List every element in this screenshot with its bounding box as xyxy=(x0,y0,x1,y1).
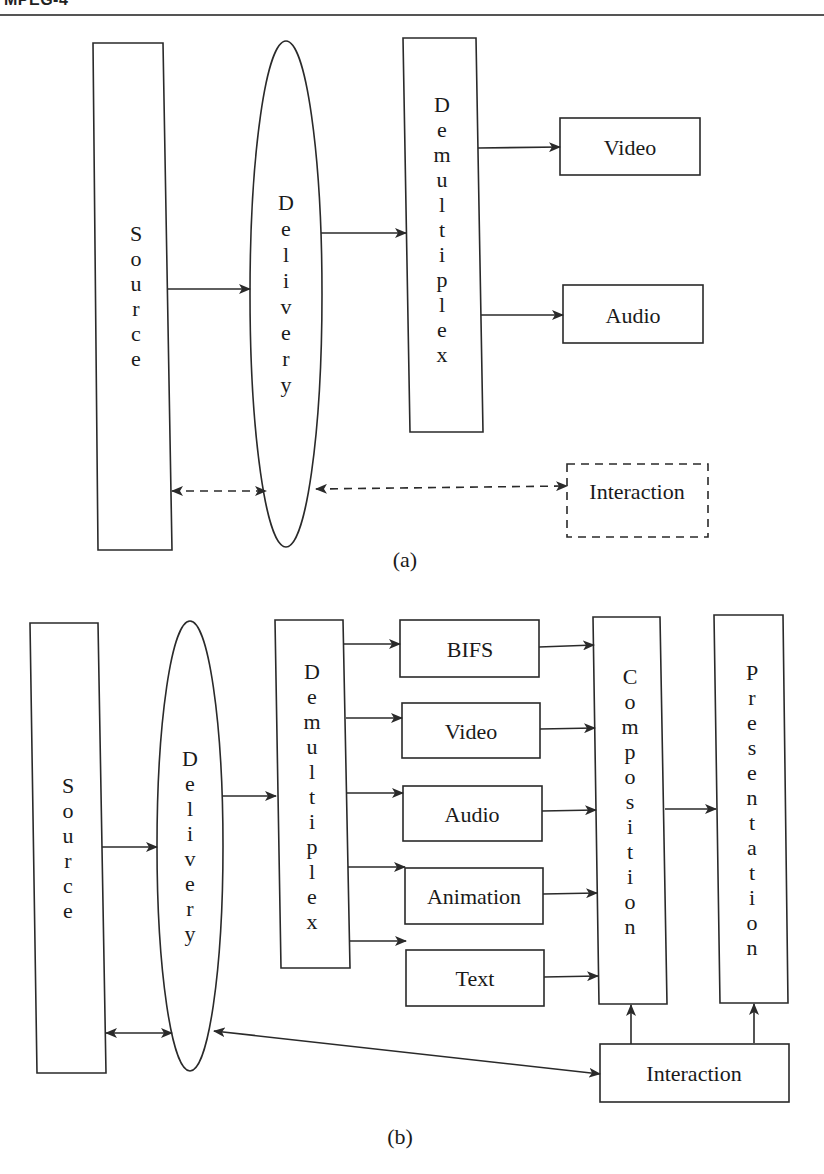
audio-box-a: Audio xyxy=(563,285,703,343)
caption-a: (a) xyxy=(393,547,417,572)
demultiplex-box-a: Demultiplex xyxy=(403,38,483,432)
audio-label-a: Audio xyxy=(606,303,661,328)
source-box-a: Source xyxy=(0,0,172,550)
audio-label-b: Audio xyxy=(445,802,500,827)
video-label-a: Video xyxy=(604,135,656,160)
video-box-b: Video xyxy=(402,703,540,758)
arrow-delivery-interaction-bidirectional-b xyxy=(214,1031,600,1074)
delivery-ellipse-b: Delivery xyxy=(157,621,223,1071)
animation-box-b: Animation xyxy=(405,868,543,924)
presentation-box-b: Presentation xyxy=(714,615,788,1003)
diagram-a: Source Delivery Demultiplex Video Audio … xyxy=(0,0,708,572)
interaction-box-b: Interaction xyxy=(600,1044,789,1102)
interaction-label-a: Interaction xyxy=(589,479,684,504)
arrow-video-to-composition-b xyxy=(540,728,595,729)
delivery-ellipse-a: Delivery xyxy=(250,41,322,547)
text-label-b: Text xyxy=(456,966,495,991)
arrow-text-to-composition-b xyxy=(544,976,598,977)
interaction-box-a: Interaction xyxy=(567,464,708,537)
arrow-audio-to-composition-b xyxy=(542,810,596,811)
animation-label-b: Animation xyxy=(427,884,521,909)
demultiplex-box-b: Demultiplex xyxy=(275,620,350,968)
video-box-a: Video xyxy=(560,118,700,175)
mpeg4-diagram: Source Delivery Demultiplex Video Audio … xyxy=(0,0,824,1174)
diagram-b: Source Delivery Demultiplex BIFS Video A… xyxy=(30,615,789,1149)
composition-box-b: Composition xyxy=(593,617,667,1004)
source-box-b: Source xyxy=(30,623,106,1073)
arrow-bifs-to-composition-b xyxy=(539,645,594,647)
caption-b: (b) xyxy=(387,1124,413,1149)
video-label-b: Video xyxy=(445,719,497,744)
audio-box-b: Audio xyxy=(403,786,542,841)
bifs-box-b: BIFS xyxy=(400,620,539,677)
dashed-arrow-delivery-interaction-a xyxy=(316,486,567,489)
interaction-label-b: Interaction xyxy=(646,1061,741,1086)
arrow-animation-to-composition-b xyxy=(543,893,597,894)
bifs-label-b: BIFS xyxy=(447,637,493,662)
arrow-demux-to-video-a xyxy=(478,147,560,148)
text-box-b: Text xyxy=(406,950,544,1006)
